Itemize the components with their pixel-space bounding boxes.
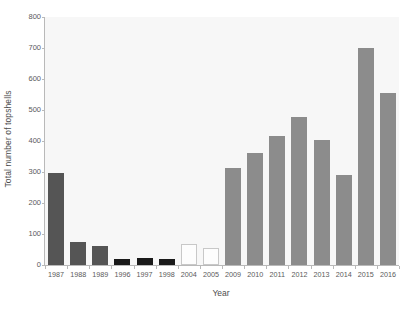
x-axis-tick-label: 2009 xyxy=(222,271,244,278)
bar-slot xyxy=(380,17,396,265)
x-axis-tick-mark xyxy=(333,266,334,269)
x-axis-tick-mark xyxy=(200,266,201,269)
y-axis-tick-label: 600 xyxy=(15,75,41,83)
bar-2009[interactable] xyxy=(225,168,241,265)
y-axis-tick-label: 200 xyxy=(15,199,41,207)
bar-1997[interactable] xyxy=(137,258,153,265)
x-axis-tick-label: 1989 xyxy=(89,271,111,278)
bar-2012[interactable] xyxy=(291,117,307,265)
x-axis-tick-label: 2012 xyxy=(288,271,310,278)
y-axis-tick-label: 700 xyxy=(15,44,41,52)
bar-2016[interactable] xyxy=(380,93,396,265)
x-axis-tick-mark xyxy=(156,266,157,269)
y-axis-title-text: Total number of topshells xyxy=(2,91,12,188)
bar-slot xyxy=(70,17,86,265)
x-axis-tick-label: 1996 xyxy=(111,271,133,278)
x-axis-tick-mark xyxy=(134,266,135,269)
bar-slot xyxy=(181,17,197,265)
x-axis-tick-label: 2005 xyxy=(200,271,222,278)
x-axis-tick-label: 2015 xyxy=(355,271,377,278)
bar-slot xyxy=(137,17,153,265)
bar-slot xyxy=(291,17,307,265)
bar-slot xyxy=(48,17,64,265)
y-axis-tick-label: 0 xyxy=(15,261,41,269)
x-axis-tick-label: 1997 xyxy=(134,271,156,278)
bar-slot xyxy=(247,17,263,265)
y-axis-tick-label: 400 xyxy=(15,137,41,145)
x-axis-tick-label: 2004 xyxy=(178,271,200,278)
bar-slot xyxy=(159,17,175,265)
bar-1988[interactable] xyxy=(70,242,86,265)
bar-1987[interactable] xyxy=(48,173,64,265)
x-axis-tick-label: 2010 xyxy=(244,271,266,278)
y-axis-tick-label: 800 xyxy=(15,13,41,21)
bar-slot xyxy=(269,17,285,265)
x-axis-tick-mark xyxy=(89,266,90,269)
bar-1989[interactable] xyxy=(92,246,108,265)
bar-slot xyxy=(225,17,241,265)
bar-chart-figure: Total number of topshells 01002003004005… xyxy=(0,0,403,312)
plot-area: 0100200300400500600700800 19871988198919… xyxy=(44,17,399,266)
bar-slot xyxy=(336,17,352,265)
x-axis-tick-label: 2013 xyxy=(311,271,333,278)
bar-slot xyxy=(203,17,219,265)
x-axis-tick-mark xyxy=(111,266,112,269)
x-axis-tick-mark xyxy=(266,266,267,269)
y-axis-tick-label: 300 xyxy=(15,168,41,176)
bar-1998[interactable] xyxy=(159,259,175,265)
bar-2005[interactable] xyxy=(203,248,219,265)
x-axis-tick-mark xyxy=(178,266,179,269)
y-axis-tick-label: 100 xyxy=(15,230,41,238)
y-axis-title: Total number of topshells xyxy=(0,0,14,278)
bar-slot xyxy=(314,17,330,265)
x-axis-tick-mark xyxy=(311,266,312,269)
x-axis-tick-mark xyxy=(355,266,356,269)
x-axis-title: Year xyxy=(44,288,398,298)
x-axis-tick-mark xyxy=(399,266,400,269)
x-axis-tick-mark xyxy=(222,266,223,269)
bar-2004[interactable] xyxy=(181,244,197,265)
bar-slot xyxy=(114,17,130,265)
bar-slot xyxy=(92,17,108,265)
bar-2014[interactable] xyxy=(336,175,352,265)
x-axis-tick-mark xyxy=(288,266,289,269)
x-axis-tick-label: 1998 xyxy=(156,271,178,278)
x-axis-tick-label: 2014 xyxy=(333,271,355,278)
y-axis-tick-label: 500 xyxy=(15,106,41,114)
x-axis-tick-label: 2011 xyxy=(266,271,288,278)
x-axis-tick-mark xyxy=(67,266,68,269)
bar-2011[interactable] xyxy=(269,136,285,265)
bar-1996[interactable] xyxy=(114,259,130,265)
x-axis-tick-mark xyxy=(244,266,245,269)
bar-2010[interactable] xyxy=(247,153,263,265)
x-axis-tick-mark xyxy=(377,266,378,269)
x-axis-tick-label: 1988 xyxy=(67,271,89,278)
bar-series xyxy=(45,17,399,265)
bar-2013[interactable] xyxy=(314,140,330,265)
x-axis-tick-label: 1987 xyxy=(45,271,67,278)
bar-slot xyxy=(358,17,374,265)
bar-2015[interactable] xyxy=(358,48,374,265)
x-axis-tick-label: 2016 xyxy=(377,271,399,278)
x-axis-tick-mark xyxy=(45,266,46,269)
